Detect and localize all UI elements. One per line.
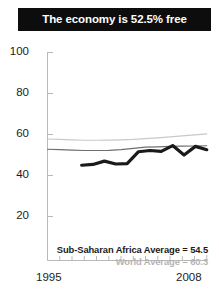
y-tick-marks — [48, 53, 54, 217]
series-line-ssa-average — [82, 146, 207, 166]
y-tick-label: 100 — [3, 46, 29, 58]
series-line-ssa-thin — [48, 146, 207, 151]
economy-freedom-chart-card: The economy is 52.5% free — [0, 0, 219, 297]
series-line-world-average — [48, 134, 207, 140]
series-group — [48, 134, 207, 165]
y-tick-label: 60 — [3, 128, 29, 140]
x-tick-label-end: 2008 — [176, 272, 202, 284]
y-tick-label: 20 — [3, 210, 29, 222]
chart-legend: Sub-Saharan Africa Average = 54.5 World … — [40, 244, 208, 268]
y-tick-label: 80 — [3, 87, 29, 99]
plot-area: 100 80 60 40 20 Sub-Saharan Africa Avera… — [0, 40, 219, 297]
legend-world-average: World Average = 60.3 — [40, 256, 208, 268]
chart-title: The economy is 52.5% free — [42, 14, 187, 26]
x-tick-label-start: 1995 — [36, 272, 62, 284]
chart-title-bar: The economy is 52.5% free — [18, 8, 211, 31]
legend-ssa-average: Sub-Saharan Africa Average = 54.5 — [40, 244, 208, 256]
y-tick-label: 40 — [3, 169, 29, 181]
